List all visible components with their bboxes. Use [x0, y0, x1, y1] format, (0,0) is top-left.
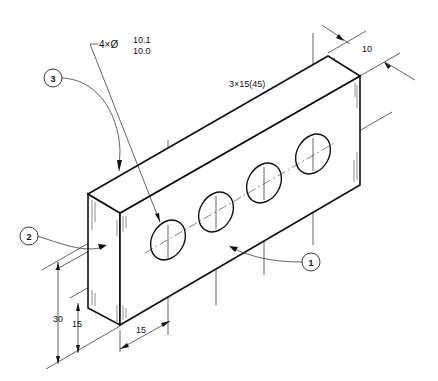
block-body	[88, 56, 360, 325]
svg-text:1: 1	[308, 258, 313, 268]
hole-callout-count: 4×Ø	[99, 39, 118, 50]
height-total-label: 30	[53, 314, 63, 324]
thickness-label: 10	[362, 44, 372, 54]
edge-to-first-hole-label: 15	[136, 325, 146, 335]
hole-spacing-label: 3×15(45)	[229, 79, 265, 89]
ext-line-bottom	[46, 326, 120, 369]
dimension-height-30	[56, 262, 60, 364]
svg-text:3: 3	[50, 74, 55, 84]
height-hole-center-label: 15	[72, 319, 82, 329]
hole-tolerance-lower: 10.0	[133, 46, 151, 56]
balloon-1: 1	[302, 253, 320, 271]
balloon-3-leader	[60, 78, 120, 150]
balloon-3: 3	[44, 69, 62, 87]
svg-text:2: 2	[26, 232, 31, 242]
technical-drawing: 1 2 3 4×Ø 10.1 10.0 3×15(45) 10 30 15 15	[0, 0, 438, 381]
balloon-2: 2	[20, 227, 38, 245]
hole-tolerance-upper: 10.1	[133, 35, 151, 45]
